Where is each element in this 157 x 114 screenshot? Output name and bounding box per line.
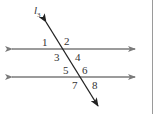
angle-label-7: 7 [72, 79, 78, 91]
angle-label-5: 5 [63, 64, 69, 76]
angle-label-3: 3 [54, 51, 60, 63]
parallel-lines-diagram: l3 1 2 3 4 5 6 7 8 [0, 0, 157, 114]
angle-label-6: 6 [82, 64, 88, 76]
angle-label-1: 1 [42, 36, 48, 48]
angle-label-8: 8 [92, 79, 98, 91]
transversal-label: l3 [34, 4, 41, 19]
angle-label-2: 2 [64, 35, 70, 47]
angle-label-4: 4 [75, 51, 81, 63]
transversal-line [46, 22, 98, 106]
